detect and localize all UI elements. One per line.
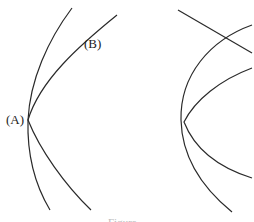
- figure-caption: Figure: [108, 216, 137, 222]
- label-b: (B): [84, 36, 101, 51]
- left-panel: (A) (B): [6, 8, 117, 210]
- curve-2: [28, 15, 117, 210]
- diagram-canvas: (A) (B) Figure: [0, 0, 254, 222]
- curve-3: [181, 25, 252, 212]
- right-panel: [178, 10, 252, 212]
- curve-1: [28, 8, 72, 210]
- curve-4: [184, 68, 252, 178]
- label-a: (A): [6, 112, 24, 127]
